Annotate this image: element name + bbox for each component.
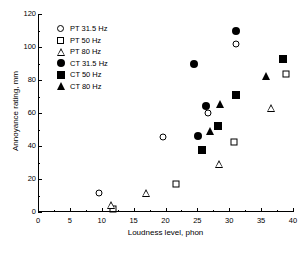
y-tick: [38, 113, 42, 114]
x-minor-tick: [277, 210, 278, 212]
data-point: [206, 127, 214, 135]
x-tick-label: 35: [257, 217, 265, 225]
x-tick-label: 25: [193, 217, 201, 225]
data-point: [194, 132, 202, 140]
marker-circle-open: [232, 40, 239, 47]
x-tick-label: 40: [289, 217, 297, 225]
y-tick: [38, 146, 42, 147]
x-tick-label: 30: [225, 217, 233, 225]
marker-square-open: [57, 37, 64, 44]
data-point: [267, 104, 275, 112]
chart-legend: PT 31.5 HzPT 50 HzPT 80 HzCT 31.5 HzCT 5…: [54, 23, 108, 92]
data-point: [232, 40, 239, 47]
data-point: [198, 146, 206, 154]
x-tick-label: 0: [36, 217, 40, 225]
legend-item: PT 50 Hz: [54, 35, 108, 47]
marker-circle-filled: [202, 102, 210, 110]
marker-triangle-open: [142, 189, 150, 197]
data-point: [107, 201, 115, 209]
x-axis-title: Loudness level, phon: [128, 228, 204, 237]
legend-item: PT 80 Hz: [54, 46, 108, 58]
legend-label: CT 31.5 Hz: [70, 59, 108, 68]
y-minor-tick: [38, 31, 40, 32]
y-tick: [38, 47, 42, 48]
data-point: [232, 91, 240, 99]
legend-label: PT 50 Hz: [70, 36, 101, 45]
marker-triangle-filled: [216, 100, 224, 108]
chart-figure: 0510152025303540 020406080100120 Loudnes…: [0, 0, 303, 261]
x-tick: [134, 208, 135, 212]
legend-label: CT 80 Hz: [70, 82, 102, 91]
data-point: [172, 180, 179, 187]
x-minor-tick: [118, 210, 119, 212]
y-tick-label: 0: [22, 208, 36, 216]
legend-item: PT 31.5 Hz: [54, 23, 108, 35]
y-tick-label: 20: [22, 175, 36, 183]
x-tick-label: 15: [129, 217, 137, 225]
x-tick: [166, 208, 167, 212]
x-tick: [293, 208, 294, 212]
marker-square-open: [282, 71, 289, 78]
data-point: [230, 138, 237, 145]
x-tick-label: 10: [98, 217, 106, 225]
x-minor-tick: [150, 210, 151, 212]
x-minor-tick: [86, 210, 87, 212]
y-minor-tick: [38, 196, 40, 197]
y-tick-label: 40: [22, 142, 36, 150]
y-tick: [38, 14, 42, 15]
x-tick-label: 5: [68, 217, 72, 225]
marker-circle-filled: [194, 132, 202, 140]
data-point: [282, 71, 289, 78]
marker-circle-filled: [232, 27, 240, 35]
legend-item: CT 80 Hz: [54, 81, 108, 93]
y-tick: [38, 179, 42, 180]
y-axis-title: Annoyance rating, mm: [11, 71, 20, 151]
x-tick: [229, 208, 230, 212]
marker-square-filled: [214, 122, 222, 130]
y-tick-label: 80: [22, 76, 36, 84]
marker-square-open: [172, 180, 179, 187]
legend-marker: [54, 48, 67, 56]
data-point: [216, 100, 224, 108]
x-minor-tick: [54, 210, 55, 212]
marker-circle-filled: [57, 59, 65, 67]
x-tick: [197, 208, 198, 212]
data-point: [262, 72, 270, 80]
y-minor-tick: [38, 163, 40, 164]
x-minor-tick: [245, 210, 246, 212]
marker-circle-open: [159, 134, 166, 141]
data-point: [190, 60, 198, 68]
legend-marker: [54, 25, 67, 32]
y-minor-tick: [38, 64, 40, 65]
marker-square-open: [230, 138, 237, 145]
data-point: [202, 102, 210, 110]
data-point: [279, 55, 287, 63]
legend-label: PT 80 Hz: [70, 47, 101, 56]
marker-square-filled: [198, 146, 206, 154]
legend-label: PT 31.5 Hz: [70, 24, 107, 33]
marker-square-filled: [279, 55, 287, 63]
data-point: [215, 160, 223, 168]
y-tick: [38, 80, 42, 81]
x-tick: [261, 208, 262, 212]
legend-marker: [54, 59, 67, 67]
marker-triangle-open: [57, 48, 65, 56]
marker-triangle-filled: [262, 72, 270, 80]
y-minor-tick: [38, 130, 40, 131]
legend-item: CT 31.5 Hz: [54, 58, 108, 70]
legend-label: CT 50 Hz: [70, 70, 102, 79]
x-tick: [70, 208, 71, 212]
marker-triangle-filled: [206, 127, 214, 135]
marker-triangle-open: [267, 104, 275, 112]
y-tick: [38, 212, 42, 213]
marker-triangle-filled: [57, 82, 65, 90]
y-minor-tick: [38, 97, 40, 98]
data-point: [95, 190, 102, 197]
legend-marker: [54, 82, 67, 90]
data-point: [214, 122, 222, 130]
x-minor-tick: [181, 210, 182, 212]
marker-circle-filled: [190, 60, 198, 68]
marker-square-filled: [57, 71, 65, 79]
legend-marker: [54, 71, 67, 79]
x-tick: [102, 208, 103, 212]
